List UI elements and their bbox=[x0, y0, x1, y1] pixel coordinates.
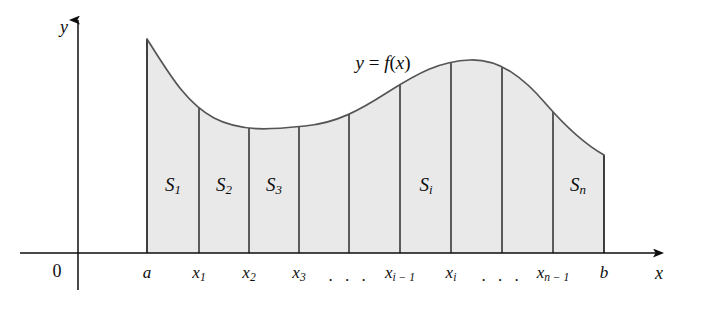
subscript: i − 1 bbox=[393, 271, 416, 284]
y-axis-label: y bbox=[60, 18, 68, 36]
subscript: 3 bbox=[276, 182, 282, 197]
region-label-S2: S2 bbox=[216, 175, 232, 198]
region-label-S1: S1 bbox=[165, 175, 181, 198]
x-tick-label-x1: x1 bbox=[192, 264, 205, 284]
subscript: 1 bbox=[175, 182, 181, 197]
x-tick-label-xi: xi bbox=[446, 264, 457, 284]
curve-equation-label: y = f(x) bbox=[355, 53, 410, 72]
x-tick-label-xi-1: xi − 1 bbox=[385, 264, 415, 284]
subscript: 3 bbox=[300, 271, 306, 284]
x-axis-label: x bbox=[655, 264, 663, 282]
ellipsis-right: . . . bbox=[481, 266, 522, 286]
curve-label-x: x bbox=[396, 52, 404, 73]
subscript: 2 bbox=[226, 182, 232, 197]
region-label-S3: S3 bbox=[266, 175, 282, 198]
ellipsis-left: . . . bbox=[328, 266, 369, 286]
subscript: i bbox=[453, 271, 456, 284]
curve-label-equals: = bbox=[364, 52, 384, 73]
x-tick-label-x2: x2 bbox=[242, 264, 255, 284]
subscript: 2 bbox=[250, 271, 256, 284]
subscript: n bbox=[580, 182, 586, 197]
curve-label-paren-close: ) bbox=[404, 52, 410, 73]
x-tick-label-a: a bbox=[143, 264, 152, 281]
origin-label: 0 bbox=[53, 262, 62, 280]
region-label-Sn: Sn bbox=[570, 175, 586, 198]
subscript: n − 1 bbox=[544, 271, 569, 284]
subscript: 1 bbox=[200, 271, 206, 284]
x-tick-label-b: b bbox=[600, 264, 609, 281]
x-tick-label-x3: x3 bbox=[292, 264, 305, 284]
region-label-Si: Si bbox=[419, 175, 432, 198]
riemann-sum-figure: y x 0 y = f(x) ax1x2x3xi − 1xixn − 1b. .… bbox=[0, 0, 701, 312]
x-tick-label-xn-1: xn − 1 bbox=[537, 264, 570, 284]
subscript: i bbox=[429, 182, 433, 197]
